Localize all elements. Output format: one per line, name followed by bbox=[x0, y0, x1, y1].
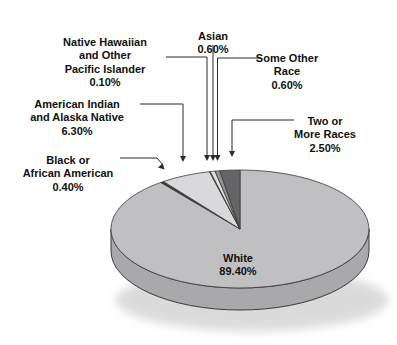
label-text: Two or More Races bbox=[294, 115, 356, 141]
label-text: White bbox=[223, 252, 253, 264]
label-value: 0.40% bbox=[23, 181, 114, 195]
label-text: Asian bbox=[198, 30, 228, 42]
leader-sor bbox=[218, 58, 262, 155]
label-black-or-african-american: Black or African American 0.40% bbox=[23, 140, 114, 208]
label-text: American Indian and Alaska Native bbox=[30, 98, 124, 124]
label-value: 6.30% bbox=[30, 125, 124, 139]
label-asian: Asian 0.60% bbox=[197, 16, 228, 70]
arrowhead-two bbox=[229, 151, 235, 157]
leader-two bbox=[232, 120, 294, 151]
label-text: Native Hawaiian and Other Pacific Island… bbox=[63, 36, 147, 75]
label-two-or-more-races: Two or More Races 2.50% bbox=[294, 101, 356, 169]
label-value: 0.60% bbox=[197, 43, 228, 57]
pie-chart-figure: Native Hawaiian and Other Pacific Island… bbox=[0, 0, 397, 345]
label-value: 2.50% bbox=[294, 142, 356, 156]
label-value: 89.40% bbox=[219, 265, 256, 279]
label-text: Black or African American bbox=[23, 154, 114, 180]
arrowhead-nhpi bbox=[204, 155, 210, 161]
label-value: 0.60% bbox=[256, 79, 318, 93]
leader-nhpi bbox=[166, 57, 207, 155]
arrowhead-black bbox=[158, 163, 165, 169]
label-text: Some Other Race bbox=[256, 52, 318, 78]
leader-aian bbox=[140, 104, 183, 156]
arrowhead-aian bbox=[180, 156, 186, 162]
leader-black bbox=[120, 158, 162, 164]
arrowhead-sor bbox=[215, 155, 221, 161]
label-white: White 89.40% bbox=[219, 238, 256, 292]
label-some-other-race: Some Other Race 0.60% bbox=[256, 38, 318, 106]
